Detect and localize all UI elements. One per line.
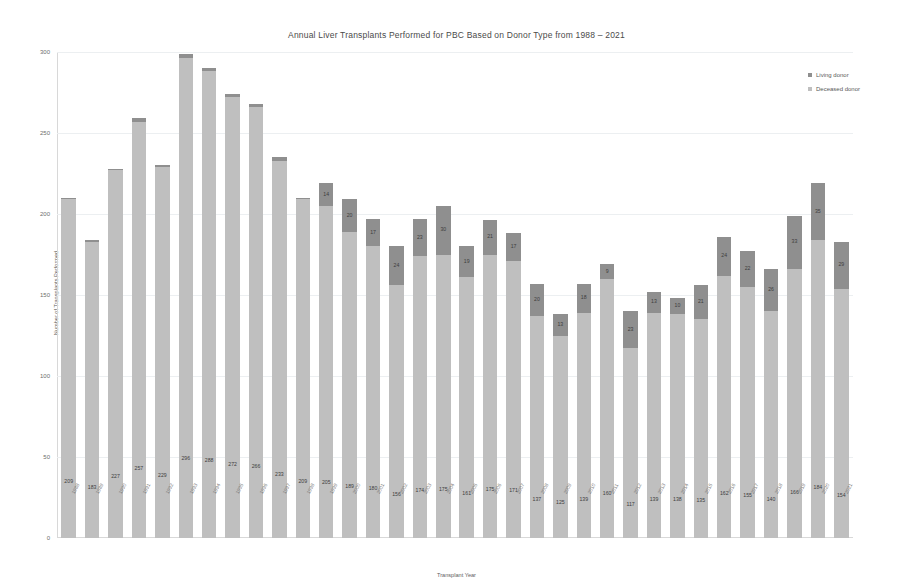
bar-segment-living[interactable]: 23 xyxy=(413,219,428,256)
y-tick-label: 100 xyxy=(40,373,50,379)
bar-segment-deceased[interactable]: 156 xyxy=(389,285,404,538)
bar-group[interactable]: 272 xyxy=(225,94,240,538)
bar-segment-living[interactable]: 26 xyxy=(764,269,779,311)
bar-segment-living[interactable]: 35 xyxy=(811,183,826,240)
bar-segment-living[interactable]: 33 xyxy=(787,216,802,269)
bar-group[interactable]: 233 xyxy=(272,157,287,538)
bar-value-label: 17 xyxy=(511,245,517,250)
bar-segment-deceased[interactable]: 175 xyxy=(436,255,451,539)
bar-segment-deceased[interactable]: 137 xyxy=(530,316,545,538)
bar-segment-deceased[interactable]: 257 xyxy=(132,122,147,538)
bar-value-label: 227 xyxy=(111,474,120,479)
chart-canvas: Annual Liver Transplants Performed for P… xyxy=(0,0,913,586)
bar-group[interactable]: 13810 xyxy=(670,298,685,538)
bar-segment-living[interactable]: 18 xyxy=(577,284,592,313)
bar-segment-living[interactable] xyxy=(179,54,194,59)
bar-segment-deceased[interactable]: 155 xyxy=(740,287,755,538)
bar-value-label: 10 xyxy=(675,304,681,309)
bar-segment-living[interactable]: 24 xyxy=(717,237,732,276)
bar-segment-living[interactable] xyxy=(132,118,147,121)
bar-value-label: 9 xyxy=(606,269,609,274)
bar-segment-deceased[interactable]: 266 xyxy=(249,107,264,538)
bar-segment-deceased[interactable]: 288 xyxy=(202,71,217,538)
bar-segment-living[interactable]: 19 xyxy=(459,246,474,277)
bar-segment-deceased[interactable]: 296 xyxy=(179,58,194,538)
bar-segment-deceased[interactable]: 139 xyxy=(647,313,662,538)
bar-segment-deceased[interactable]: 160 xyxy=(600,279,615,538)
bar-group[interactable]: 296 xyxy=(179,54,194,538)
bar-segment-living[interactable]: 24 xyxy=(389,246,404,285)
bar-segment-living[interactable]: 9 xyxy=(600,264,615,279)
bar-segment-living[interactable]: 30 xyxy=(436,206,451,255)
bar-segment-living[interactable] xyxy=(155,165,170,167)
bar-value-label: 20 xyxy=(347,213,353,218)
bar-segment-living[interactable]: 29 xyxy=(834,242,849,289)
bar-value-label: 288 xyxy=(205,458,214,463)
bar-group[interactable]: 288 xyxy=(202,68,217,538)
legend-swatch-icon xyxy=(808,87,812,91)
bar-group[interactable]: 13521 xyxy=(694,285,709,538)
bar-segment-living[interactable]: 21 xyxy=(483,220,498,254)
bar-segment-living[interactable]: 17 xyxy=(506,233,521,261)
bar-segment-living[interactable]: 13 xyxy=(553,314,568,335)
x-axis-label: Transplant Year xyxy=(0,572,913,578)
bar-group[interactable]: 15522 xyxy=(740,251,755,538)
gridline xyxy=(57,457,853,458)
bar-segment-deceased[interactable]: 154 xyxy=(834,289,849,538)
bar-group[interactable]: 11723 xyxy=(623,311,638,538)
bar-segment-living[interactable] xyxy=(202,68,217,71)
bar-segment-deceased[interactable]: 125 xyxy=(553,336,568,539)
bar-group[interactable]: 1609 xyxy=(600,264,615,538)
bar-value-label: 205 xyxy=(322,480,331,485)
bar-value-label: 20 xyxy=(534,297,540,302)
bar-segment-deceased[interactable]: 175 xyxy=(483,255,498,539)
bar-group[interactable]: 13918 xyxy=(577,284,592,538)
bar-group[interactable]: 266 xyxy=(249,104,264,538)
bar-segment-living[interactable] xyxy=(296,198,311,200)
bar-segment-living[interactable]: 23 xyxy=(623,311,638,348)
bar-segment-deceased[interactable]: 135 xyxy=(694,319,709,538)
bar-segment-deceased[interactable]: 229 xyxy=(155,167,170,538)
bar-segment-living[interactable] xyxy=(61,198,76,200)
bar-segment-living[interactable] xyxy=(225,94,240,97)
bar-segment-living[interactable]: 17 xyxy=(366,219,381,247)
bar-segment-living[interactable] xyxy=(108,169,123,171)
bar-segment-deceased[interactable]: 162 xyxy=(717,276,732,538)
bar-segment-deceased[interactable]: 171 xyxy=(506,261,521,538)
bar-group[interactable]: 13720 xyxy=(530,284,545,538)
bar-segment-living[interactable]: 14 xyxy=(319,183,334,206)
gridline xyxy=(57,133,853,134)
bar-value-label: 138 xyxy=(673,497,682,502)
bar-group[interactable]: 14026 xyxy=(764,269,779,538)
bar-group[interactable]: 257 xyxy=(132,118,147,538)
bar-segment-deceased[interactable]: 161 xyxy=(459,277,474,538)
bar-segment-living[interactable] xyxy=(85,240,100,242)
bar-value-label: 125 xyxy=(556,500,565,505)
bar-segment-deceased[interactable]: 174 xyxy=(413,256,428,538)
chart-title: Annual Liver Transplants Performed for P… xyxy=(0,30,913,40)
bar-group[interactable]: 229 xyxy=(155,165,170,538)
bar-segment-living[interactable]: 21 xyxy=(694,285,709,319)
bar-segment-deceased[interactable]: 272 xyxy=(225,97,240,538)
bar-segment-deceased[interactable]: 166 xyxy=(787,269,802,538)
bar-group[interactable]: 13913 xyxy=(647,292,662,538)
legend-item[interactable]: Deceased donor xyxy=(808,86,860,92)
bar-segment-living[interactable] xyxy=(249,104,264,107)
bar-segment-living[interactable]: 10 xyxy=(670,298,685,314)
bar-segment-deceased[interactable]: 180 xyxy=(366,246,381,538)
bar-segment-deceased[interactable]: 233 xyxy=(272,161,287,538)
bar-segment-deceased[interactable]: 138 xyxy=(670,314,685,538)
bar-segment-deceased[interactable]: 139 xyxy=(577,313,592,538)
bar-segment-living[interactable]: 20 xyxy=(342,199,357,231)
bar-segment-deceased[interactable]: 117 xyxy=(623,348,638,538)
bar-segment-living[interactable]: 13 xyxy=(647,292,662,313)
bar-segment-deceased[interactable]: 140 xyxy=(764,311,779,538)
bar-segment-living[interactable]: 20 xyxy=(530,284,545,316)
bar-segment-living[interactable] xyxy=(272,157,287,160)
bar-value-label: 18 xyxy=(581,296,587,301)
legend-item[interactable]: Living donor xyxy=(808,72,860,78)
bar-segment-living[interactable]: 22 xyxy=(740,251,755,287)
gridline xyxy=(57,52,853,53)
bar-group[interactable]: 12513 xyxy=(553,314,568,538)
bar-value-label: 14 xyxy=(323,192,329,197)
